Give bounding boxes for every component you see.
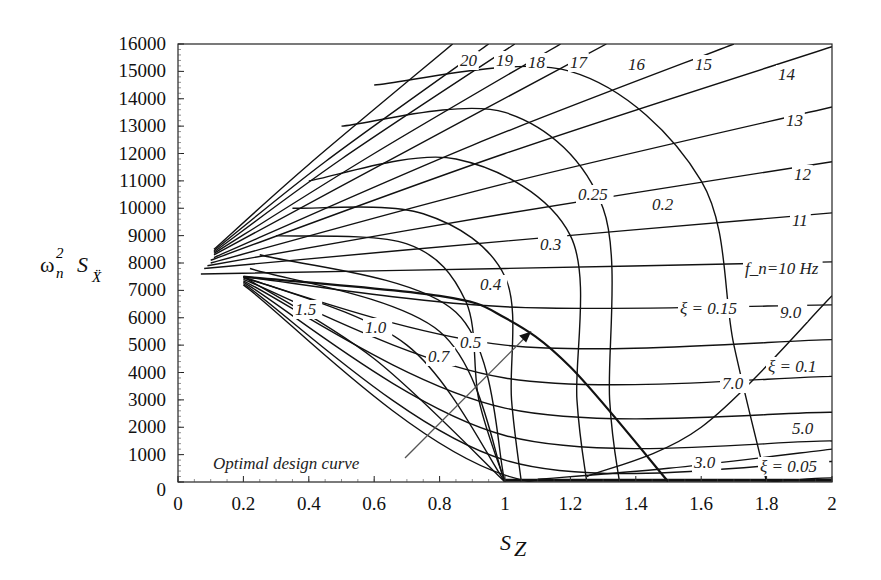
damping-label-1.5: 1.5 — [295, 300, 316, 319]
y-axis-title-sup: 2 — [56, 245, 64, 261]
damping-label-0.1: ξ = 0.1 — [768, 357, 817, 376]
y-axis-title-omega: ω — [40, 252, 54, 277]
x-tick-label: 1.2 — [559, 493, 583, 514]
frequency-label-20: 20 — [460, 51, 478, 70]
y-tick-label: 16000 — [119, 33, 167, 54]
frequency-curve-17 — [214, 44, 561, 253]
damping-curve-0.15 — [374, 66, 766, 482]
y-tick-label: 5000 — [128, 334, 166, 355]
x-tick-label: 1.8 — [755, 493, 779, 514]
damping-label-0.15: ξ = 0.15 — [680, 299, 737, 318]
x-tick-label: 0 — [173, 493, 183, 514]
frequency-curve-11 — [204, 213, 832, 269]
y-tick-label: 6000 — [128, 307, 166, 328]
frequency-label-11: 11 — [792, 211, 808, 230]
x-tick-label: 0.4 — [297, 493, 321, 514]
x-tick-label: 1 — [500, 493, 510, 514]
y-tick-label: 4000 — [128, 362, 166, 383]
frequency-curve-19 — [214, 44, 489, 251]
damping-label-0.7: 0.7 — [428, 347, 451, 366]
y-tick-label: 0 — [157, 479, 167, 500]
y-axis-title-n: n — [56, 265, 64, 281]
damping-label-0.05: ξ = 0.05 — [760, 457, 817, 476]
damping-curve-1.0 — [243, 277, 505, 482]
damping-label-0.5: 0.5 — [460, 333, 481, 352]
frequency-curve-10 — [201, 262, 832, 274]
y-tick-label: 9000 — [128, 225, 166, 246]
y-tick-label: 7000 — [128, 279, 166, 300]
chart-svg: 00.20.40.60.811.21.41.61.820100020003000… — [0, 0, 881, 580]
y-tick-label: 11000 — [119, 170, 166, 191]
damping-label-0.3: 0.3 — [540, 235, 561, 254]
damping-label-1.0: 1.0 — [365, 318, 387, 337]
frequency-curve-14 — [211, 47, 832, 261]
frequency-label-5.0: 5.0 — [792, 419, 814, 438]
x-axis-title: S Z — [500, 530, 527, 561]
damping-label-0.2: 0.2 — [652, 195, 674, 214]
damping-curve-0.25 — [309, 157, 587, 482]
damping-curve-1.5 — [243, 277, 505, 482]
x-tick-label: 0.2 — [232, 493, 256, 514]
y-tick-label: 14000 — [119, 88, 167, 109]
y-tick-label: 12000 — [119, 143, 167, 164]
y-axis-title-S: S — [77, 252, 88, 277]
optimal-design-annotation: Optimal design curve — [213, 454, 360, 473]
y-tick-label: 8000 — [128, 252, 166, 273]
y-axis-title-sub: Ẍ — [91, 269, 102, 285]
x-tick-label: 1.4 — [624, 493, 648, 514]
damping-label-0.4: 0.4 — [480, 275, 502, 294]
y-tick-label: 13000 — [119, 115, 167, 136]
y-tick-label: 3000 — [128, 389, 166, 410]
x-axis-title-main: S — [500, 530, 511, 555]
damping-label-0.25: 0.25 — [578, 185, 608, 204]
frequency-label-7.0: 7.0 — [722, 374, 744, 393]
x-tick-label: 1.6 — [689, 493, 713, 514]
frequency-curve-15 — [214, 44, 734, 258]
y-axis-title: ω 2 n S Ẍ — [40, 245, 102, 285]
frequency-label-13: 13 — [786, 111, 803, 130]
x-tick-label: 2 — [827, 493, 837, 514]
frequency-label-14: 14 — [778, 65, 796, 84]
frequency-label-19: 19 — [496, 51, 514, 70]
x-tick-label: 0.8 — [428, 493, 452, 514]
frequency-label-3.0: 3.0 — [693, 453, 716, 472]
y-tick-label: 15000 — [119, 60, 167, 81]
frequency-curve-16 — [214, 44, 606, 255]
y-tick-label: 1000 — [128, 444, 166, 465]
x-tick-label: 0.6 — [362, 493, 386, 514]
y-tick-label: 10000 — [119, 197, 167, 218]
frequency-label-12: 12 — [794, 165, 812, 184]
x-axis-title-sub: Z — [514, 536, 527, 561]
frequency-label-17: 17 — [570, 53, 589, 72]
damping-curve-0.1 — [587, 296, 832, 477]
frequency-label-16: 16 — [628, 55, 646, 74]
frequency-label-15: 15 — [695, 55, 712, 74]
frequency-label-10: f_n=10 Hz — [745, 259, 819, 278]
plot-curves — [201, 44, 832, 490]
y-tick-label: 2000 — [128, 416, 166, 437]
frequency-curve-20 — [214, 44, 453, 249]
frequency-label-9.0: 9.0 — [780, 303, 802, 322]
frequency-curve-12 — [207, 162, 832, 266]
frequency-label-18: 18 — [528, 53, 546, 72]
